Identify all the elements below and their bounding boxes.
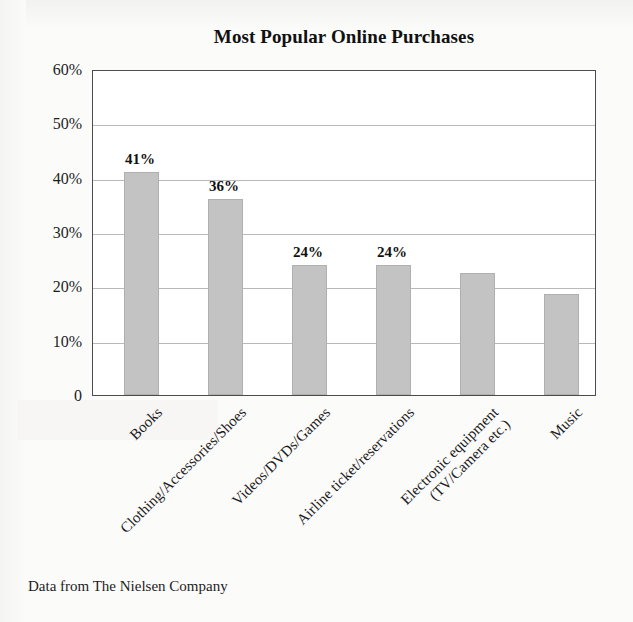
x-tick-label: Books (127, 404, 167, 444)
bar-chart-figure: Most Popular Online Purchases 010%20%30%… (0, 0, 633, 622)
x-tick-label-line: Music (547, 404, 585, 442)
x-tick-label: Music (547, 404, 586, 443)
source-caption: Data from The Nielsen Company (28, 578, 228, 595)
x-tick-label: Electronic equipment(TV/Camera etc.) (398, 404, 515, 521)
x-tick-label-line: Books (127, 404, 166, 443)
x-axis: BooksClothing/Accessories/ShoesVideos/DV… (0, 0, 633, 622)
